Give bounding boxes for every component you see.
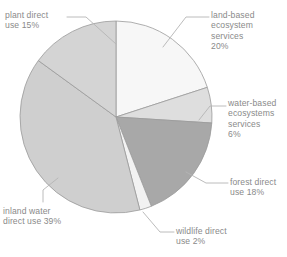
pie-label-plant-direct-use: plant direct use 15% bbox=[5, 10, 83, 31]
pie-chart: plant direct use 15% land-based ecosyste… bbox=[0, 0, 287, 257]
pie-slices bbox=[20, 21, 212, 213]
pie-label-inland-water-direct-use: inland water direct use 39% bbox=[3, 206, 87, 227]
leader-line-wildlife-direct-use bbox=[143, 212, 174, 232]
pie-label-wildlife-direct-use: wildlife direct use 2% bbox=[176, 226, 248, 247]
pie-label-land-based-ecosystem-services: land-based ecosystem services 20% bbox=[211, 10, 285, 52]
pie-label-water-based-ecosystems-services: water-based ecosystems services 6% bbox=[228, 98, 287, 140]
pie-label-forest-direct-use: forest direct use 18% bbox=[230, 177, 287, 198]
